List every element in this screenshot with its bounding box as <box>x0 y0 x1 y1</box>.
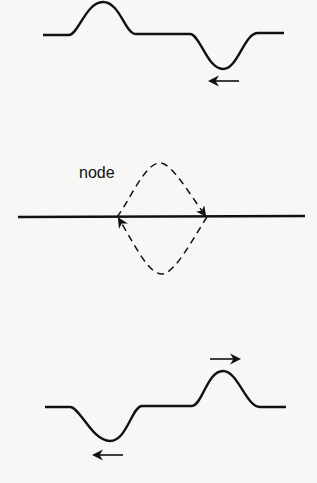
middle-node <box>18 163 305 274</box>
node-line <box>18 216 305 217</box>
top-wave-curve <box>43 2 284 69</box>
bottom-wave <box>45 359 286 455</box>
top-wave <box>43 2 284 81</box>
dashed-upper-pulse <box>117 163 205 217</box>
node-label: node <box>79 164 115 182</box>
standing-wave-diagram <box>0 0 317 483</box>
bottom-wave-curve <box>45 371 286 441</box>
dashed-lower-pulse <box>119 217 207 274</box>
